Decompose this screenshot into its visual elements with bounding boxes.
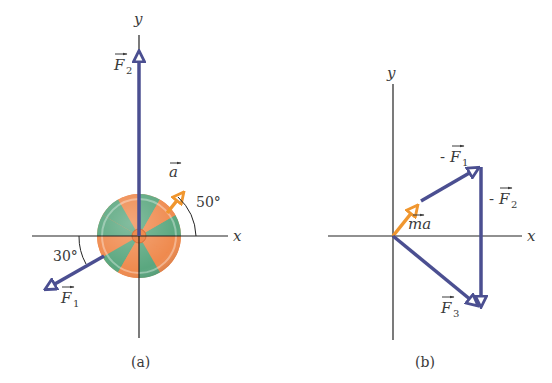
svg-text:1: 1 <box>462 157 468 168</box>
svg-text:2: 2 <box>511 199 517 210</box>
angle-arc-50 <box>178 197 196 236</box>
label-neg-F1: - F 1 <box>440 146 468 168</box>
svg-text:F: F <box>113 56 125 74</box>
angle-arc-30 <box>79 236 86 264</box>
svg-text:a: a <box>169 163 178 181</box>
panel-a: y x F 2 F 1 a 50° 30° (a) <box>32 10 242 370</box>
angle-label-50: 50° <box>196 194 221 210</box>
svg-text:F: F <box>498 190 510 208</box>
label-a: a <box>169 163 181 181</box>
svg-text:F: F <box>60 289 72 307</box>
svg-text:2: 2 <box>126 65 132 76</box>
label-F2: F 2 <box>113 54 132 76</box>
x-axis-label-a: x <box>233 227 242 245</box>
label-neg-F2: - F 2 <box>489 188 517 210</box>
vector-neg-F1 <box>421 168 478 201</box>
x-axis-label-b: x <box>527 227 536 245</box>
vector-F3 <box>393 236 477 305</box>
label-F3: F 3 <box>440 297 459 319</box>
svg-text:F: F <box>440 299 452 317</box>
svg-text:3: 3 <box>453 308 459 319</box>
svg-text:F: F <box>449 148 461 166</box>
y-axis-label-b: y <box>386 64 396 82</box>
angle-label-30: 30° <box>53 248 78 264</box>
caption-b: (b) <box>415 354 435 370</box>
caption-a: (a) <box>131 354 150 370</box>
svg-text:-: - <box>440 148 445 166</box>
panel-b: y x - F 1 - F 2 ma F 3 (b) <box>328 64 536 370</box>
svg-text:ma: ma <box>408 215 431 233</box>
svg-text:-: - <box>489 190 494 208</box>
label-ma: ma <box>408 215 431 233</box>
svg-text:1: 1 <box>73 298 79 309</box>
free-body-diagram: y x F 2 F 1 a 50° 30° (a) <box>0 0 552 383</box>
label-F1: F 1 <box>60 287 79 309</box>
y-axis-label-a: y <box>133 10 143 28</box>
vector-a <box>167 193 183 213</box>
